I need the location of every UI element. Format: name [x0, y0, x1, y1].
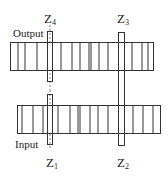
gear-block-bottom — [18, 106, 161, 134]
output-label: Output — [13, 28, 44, 39]
gear-block-top — [11, 43, 154, 71]
input-label: Input — [15, 139, 38, 150]
gear-label-z1: Z1 — [46, 156, 58, 173]
gear-label-z4: Z4 — [44, 12, 56, 29]
shaft-z4-bottom-stub — [48, 71, 53, 82]
gear-label-z3: Z3 — [117, 12, 129, 29]
gear-label-z2: Z2 — [117, 156, 129, 173]
